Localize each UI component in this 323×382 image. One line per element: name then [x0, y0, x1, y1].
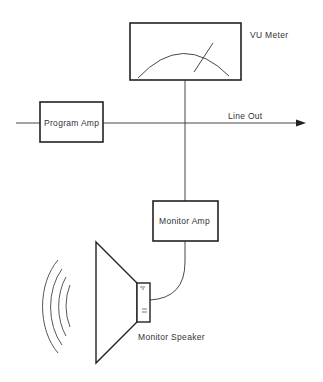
vu-meter-label: VU Meter — [250, 30, 288, 40]
sound-wave-icon — [66, 285, 70, 327]
line-out-label: Line Out — [228, 111, 263, 121]
monitor-to-speaker-wire — [150, 241, 185, 300]
program-amp-label: Program Amp — [44, 118, 99, 128]
signal-flow-diagram — [0, 0, 323, 382]
monitor-speaker-label: Monitor Speaker — [138, 332, 205, 342]
speaker-cone — [96, 242, 137, 363]
sound-wave-icon — [59, 277, 66, 336]
sound-wave-icon — [51, 269, 62, 345]
line-out-arrowhead — [296, 120, 306, 127]
monitor-amp-label: Monitor Amp — [159, 216, 210, 226]
